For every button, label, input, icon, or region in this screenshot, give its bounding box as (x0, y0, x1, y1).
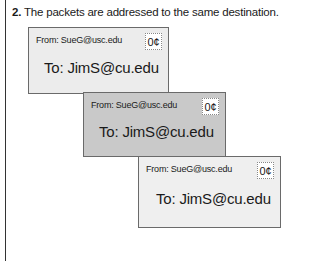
from-address: From: SueG@usc.edu (146, 164, 232, 174)
caption-text: The packets are addressed to the same de… (21, 6, 278, 18)
from-address: From: SueG@usc.edu (36, 35, 122, 45)
frame-left-border (5, 0, 6, 261)
to-address: To: JimS@cu.edu (156, 190, 271, 207)
packet-envelope-2: From: SueG@usc.edu 0¢ To: JimS@cu.edu (83, 92, 226, 157)
packet-envelope-1: From: SueG@usc.edu 0¢ To: JimS@cu.edu (28, 27, 169, 94)
caption-number: 2. (12, 6, 21, 18)
packet-envelope-3: From: SueG@usc.edu 0¢ To: JimS@cu.edu (138, 156, 281, 228)
caption: 2. The packets are addressed to the same… (12, 6, 279, 18)
from-address: From: SueG@usc.edu (91, 100, 177, 110)
to-address: To: JimS@cu.edu (99, 123, 214, 140)
stamp-icon: 0¢ (145, 33, 162, 50)
stamp-icon: 0¢ (257, 162, 274, 179)
to-address: To: JimS@cu.edu (44, 59, 159, 76)
stamp-icon: 0¢ (202, 98, 219, 115)
